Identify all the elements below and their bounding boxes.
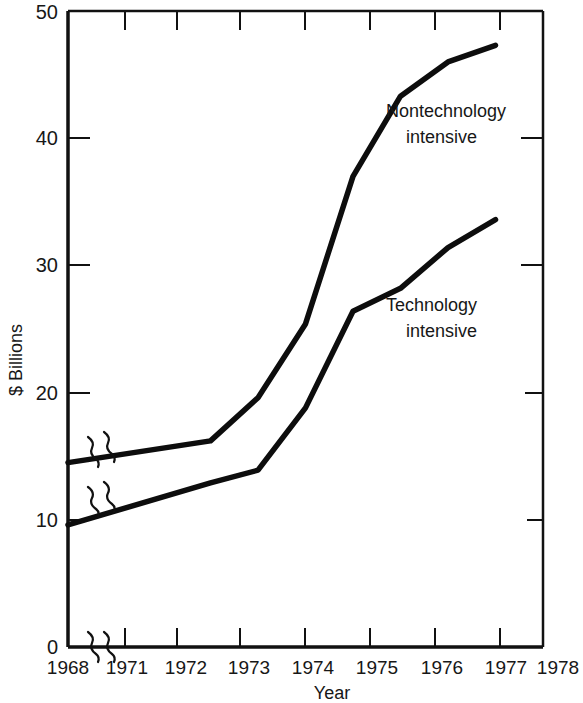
technology-label-line1: Technology <box>386 295 477 315</box>
y-axis-title: $ Billions <box>6 324 26 396</box>
y-tick-label-30: 30 <box>36 254 58 276</box>
x-axis-title: Year <box>314 683 350 703</box>
nontechnology-label-line2: intensive <box>406 127 477 147</box>
y-tick-label-10: 10 <box>36 509 58 531</box>
nontechnology-label-line1: Nontechnology <box>386 101 506 121</box>
x-tick-label-1974: 1974 <box>292 657 335 678</box>
x-tick-label-1976: 1976 <box>421 657 463 678</box>
y-tick-label-20: 20 <box>36 382 58 404</box>
y-tick-label-0: 0 <box>47 636 58 658</box>
x-tick-label-1968: 1968 <box>47 657 89 678</box>
line-chart-figure: 0 10 20 30 40 50 1968 <box>0 0 583 703</box>
y-tick-label-40: 40 <box>36 127 58 149</box>
x-tick-label-1975: 1975 <box>356 657 398 678</box>
y-tick-label-50: 50 <box>36 1 58 23</box>
technology-label-line2: intensive <box>406 321 477 341</box>
x-tick-label-1978: 1978 <box>537 657 579 678</box>
x-tick-label-1972: 1972 <box>165 657 207 678</box>
x-tick-label-1973: 1973 <box>228 657 270 678</box>
x-tick-label-1977: 1977 <box>485 657 527 678</box>
x-tick-label-1971: 1971 <box>106 657 148 678</box>
x-axis-tick-labels: 1968 1971 1972 1973 1974 1975 1976 1977 … <box>47 657 579 678</box>
